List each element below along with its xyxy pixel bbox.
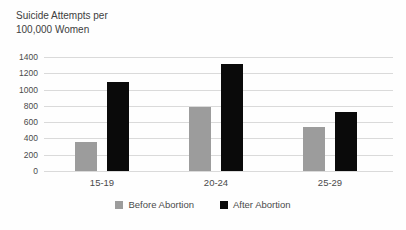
y-tick-label-1200: 1200 xyxy=(8,68,38,78)
y-tick-label-1000: 1000 xyxy=(8,85,38,95)
gridline-800 xyxy=(44,106,393,107)
bar-after-abortion-25-29 xyxy=(335,112,357,171)
bar-before-abortion-20-24 xyxy=(189,107,211,171)
legend-swatch-icon xyxy=(220,201,228,209)
chart-title-line-1: Suicide Attempts per xyxy=(16,9,108,23)
chart-title: Suicide Attempts per 100,000 Women xyxy=(16,9,108,37)
legend: Before AbortionAfter Abortion xyxy=(0,199,406,210)
y-tick-label-800: 800 xyxy=(8,101,38,111)
bar-after-abortion-20-24 xyxy=(221,64,243,171)
bar-after-abortion-15-19 xyxy=(107,82,129,171)
gridline-1200 xyxy=(44,73,393,74)
chart-title-line-2: 100,000 Women xyxy=(16,23,108,37)
x-category-label-25-29: 25-29 xyxy=(295,177,365,188)
legend-swatch-icon xyxy=(115,201,123,209)
y-tick-label-200: 200 xyxy=(8,150,38,160)
gridline-0 xyxy=(44,171,393,172)
gridline-1000 xyxy=(44,90,393,91)
legend-item-after-abortion: After Abortion xyxy=(220,199,291,210)
y-tick-label-600: 600 xyxy=(8,117,38,127)
bar-before-abortion-15-19 xyxy=(75,142,97,171)
x-category-label-20-24: 20-24 xyxy=(181,177,251,188)
bar-before-abortion-25-29 xyxy=(303,127,325,171)
legend-label: After Abortion xyxy=(233,199,291,210)
bar-chart: Suicide Attempts per 100,000 Women 02004… xyxy=(0,0,406,230)
y-tick-label-1400: 1400 xyxy=(8,52,38,62)
y-tick-label-400: 400 xyxy=(8,133,38,143)
legend-item-before-abortion: Before Abortion xyxy=(115,199,194,210)
x-category-label-15-19: 15-19 xyxy=(67,177,137,188)
y-tick-label-0: 0 xyxy=(8,166,38,176)
legend-label: Before Abortion xyxy=(128,199,194,210)
gridline-1400 xyxy=(44,57,393,58)
